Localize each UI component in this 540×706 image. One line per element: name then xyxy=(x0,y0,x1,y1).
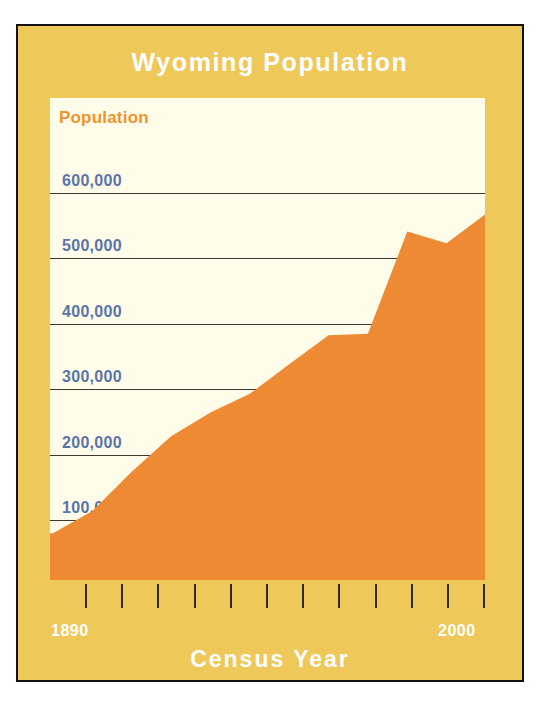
xtick-1910 xyxy=(157,584,159,608)
plot-area: Population 600,000 500,000 400,000 300,0… xyxy=(50,98,485,580)
xtick-label-1890: 1890 xyxy=(51,622,89,640)
xtick-1890 xyxy=(85,584,87,608)
xtick-label-2000: 2000 xyxy=(438,622,476,640)
xtick-1990 xyxy=(447,584,449,608)
xtick-1980 xyxy=(411,584,413,608)
xtick-1930 xyxy=(230,584,232,608)
x-axis-ticks xyxy=(50,580,501,616)
xtick-1900 xyxy=(121,584,123,608)
chart-figure: Wyoming Population Population 600,000 50… xyxy=(16,24,524,682)
chart-title: Wyoming Population xyxy=(18,48,522,77)
xtick-1940 xyxy=(266,584,268,608)
xtick-1960 xyxy=(338,584,340,608)
xtick-2000 xyxy=(483,584,485,608)
xtick-1920 xyxy=(194,584,196,608)
xtick-1950 xyxy=(302,584,304,608)
population-area-series xyxy=(50,98,485,580)
xtick-1970 xyxy=(375,584,377,608)
x-axis-label: Census Year xyxy=(18,646,522,673)
